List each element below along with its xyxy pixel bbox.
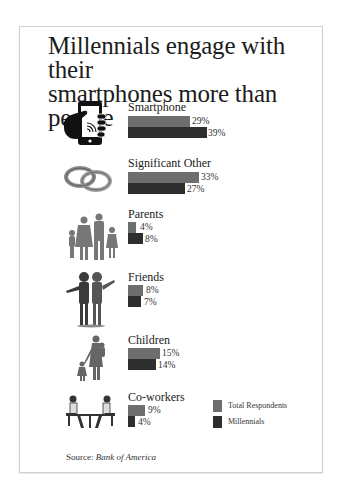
source-prefix: Source: bbox=[66, 452, 96, 462]
value-millennials: 14% bbox=[158, 360, 175, 370]
bar-millennials bbox=[128, 127, 207, 138]
bar-millennials bbox=[128, 233, 143, 244]
title-line-1: Millennials engage with their bbox=[48, 34, 318, 82]
value-millennials: 7% bbox=[144, 297, 157, 307]
bar-millennials bbox=[128, 416, 135, 427]
wedding-rings-icon bbox=[64, 164, 114, 194]
category-label: Smartphone bbox=[128, 100, 186, 115]
bar-total-respondents bbox=[128, 116, 190, 127]
legend-label: Millennials bbox=[228, 417, 264, 426]
value-millennials: 27% bbox=[187, 184, 204, 194]
value-millennials: 8% bbox=[145, 234, 158, 244]
bar-millennials bbox=[128, 359, 156, 370]
category-label: Friends bbox=[128, 270, 164, 285]
legend-swatch-total-respondents bbox=[213, 400, 222, 412]
category-label: Significant Other bbox=[128, 156, 211, 171]
bar-millennials bbox=[128, 183, 185, 194]
bar-millennials bbox=[128, 296, 141, 307]
bar-total-respondents bbox=[128, 348, 160, 359]
value-total-respondents: 29% bbox=[192, 116, 209, 126]
source-note: Source: Bank of America bbox=[66, 452, 156, 462]
value-total-respondents: 8% bbox=[146, 285, 159, 295]
coworkers-meeting-icon bbox=[65, 394, 117, 430]
family-icon bbox=[66, 211, 118, 261]
bar-total-respondents bbox=[128, 285, 143, 296]
category-label: Children bbox=[128, 333, 170, 348]
bar-total-respondents bbox=[128, 172, 199, 183]
source-name: Bank of America bbox=[96, 452, 156, 462]
category-label: Co-workers bbox=[128, 390, 185, 405]
value-total-respondents: 4% bbox=[140, 222, 153, 232]
value-millennials: 39% bbox=[208, 128, 225, 138]
value-total-respondents: 33% bbox=[201, 172, 218, 182]
bar-total-respondents bbox=[128, 405, 145, 416]
value-total-respondents: 9% bbox=[148, 405, 161, 415]
parent-child-icon bbox=[74, 335, 114, 381]
legend-label: Total Respondents bbox=[228, 401, 287, 410]
value-total-respondents: 15% bbox=[162, 348, 179, 358]
bar-total-respondents bbox=[128, 222, 136, 233]
category-label: Parents bbox=[128, 207, 163, 222]
value-millennials: 4% bbox=[138, 417, 151, 427]
smartphone-hand-icon bbox=[62, 100, 112, 146]
friends-icon bbox=[65, 270, 117, 328]
legend-swatch-millennials bbox=[213, 416, 222, 428]
